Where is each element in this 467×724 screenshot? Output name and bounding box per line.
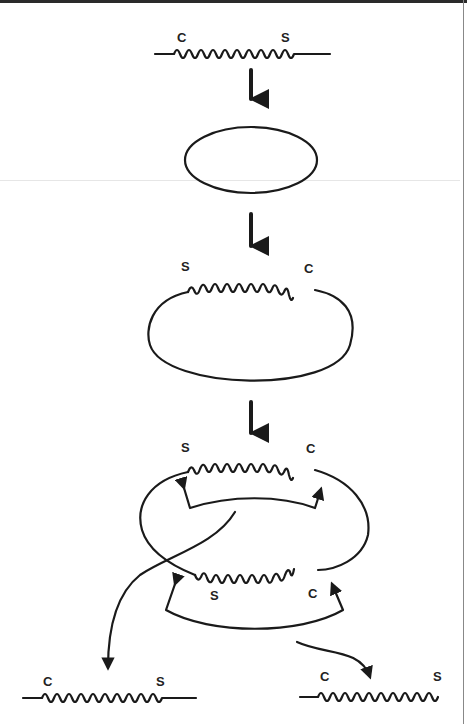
label-s: S [281,30,290,45]
stage-1-linear: C S [155,30,330,58]
circular-backbone [148,290,352,381]
diagram-frame: C S S C S C S C [0,0,467,724]
linear-dna [155,50,330,58]
label-c-top: C [306,441,316,456]
stage-4-double-insert: S C S C [108,440,370,677]
top-bracket [184,488,321,508]
loop-backbone-right [315,470,368,570]
diagram-canvas: C S S C S C S C [0,0,467,724]
right-product-dna [300,693,438,701]
label-c: C [320,669,330,684]
label-s: S [156,674,165,689]
label-c-bottom: C [308,586,318,601]
circular-dna [185,127,317,193]
top-insert-wave [188,464,293,480]
insert-wave [188,284,293,300]
stage-5-product-right: C S [300,669,442,701]
label-s-top: S [181,440,190,455]
label-s-bottom: S [210,588,219,603]
stage-5-product-left: C S [23,674,196,702]
label-s: S [433,669,442,684]
label-s: S [181,259,190,274]
stage-2-circle [185,127,317,193]
right-product-arrow [297,642,370,677]
left-product-dna [23,694,196,702]
stage-3-circle-with-insert: S C [148,259,352,381]
label-c: C [43,674,53,689]
label-c: C [177,30,187,45]
label-c: C [304,261,314,276]
bottom-insert-wave [195,569,294,583]
